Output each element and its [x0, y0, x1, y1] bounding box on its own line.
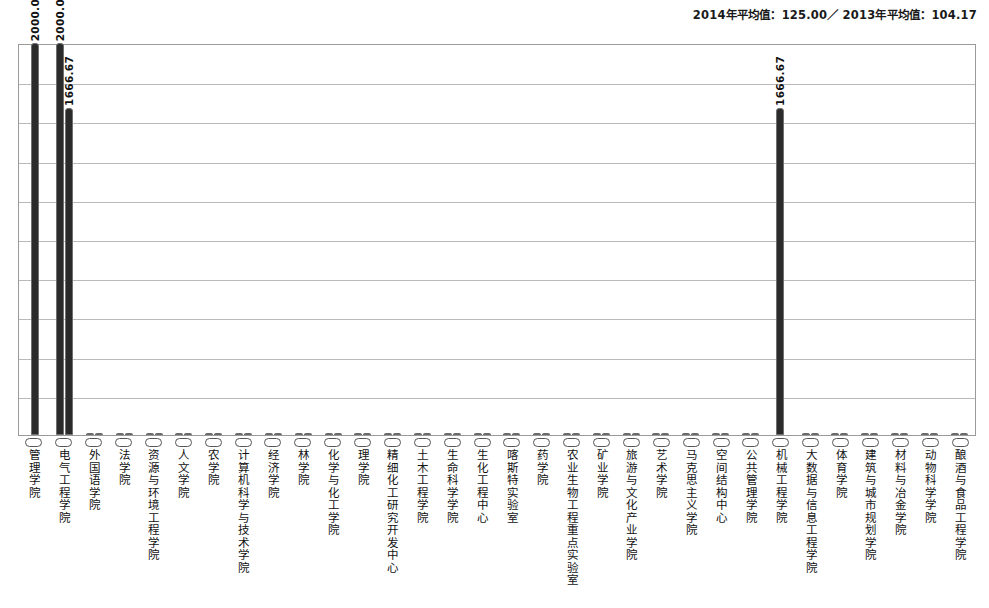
axis-tick-cell: [796, 436, 826, 448]
axis-tick-cell: [766, 436, 796, 448]
x-axis-label: 农业生物工程重点实验室: [566, 449, 578, 587]
bar-small: [265, 433, 273, 435]
axis-tick-marker: [952, 438, 969, 447]
bar-small: [125, 433, 133, 435]
x-axis-label-cell: 材料与冶金学院: [885, 449, 915, 607]
axis-tick-marker: [742, 438, 759, 447]
bar-group: [259, 45, 289, 435]
axis-tick-marker: [175, 438, 192, 447]
x-axis-label: 机械工程学院: [775, 449, 787, 524]
x-axis-label-cell: 酿酒与食品工程学院: [945, 449, 975, 607]
bar-small: [116, 433, 124, 435]
x-axis-label-cell: 计算机科学与技术学院: [228, 449, 258, 607]
x-axis-label: 计算机科学与技术学院: [237, 449, 249, 574]
bar-small: [483, 433, 491, 435]
axis-tick-cell: [228, 436, 258, 448]
bar-small: [623, 433, 631, 435]
axis-tick-marker: [25, 438, 42, 447]
bar-small: [453, 433, 461, 435]
axis-tick-marker: [294, 438, 311, 447]
x-axis-label-cell: 马克思主义学院: [676, 449, 706, 607]
bar-group: [676, 45, 706, 435]
bar-plot: 2000.02000.01666.671666.67: [19, 45, 975, 435]
bar-small: [712, 433, 720, 435]
axis-tick-cell: [318, 436, 348, 448]
x-axis-labels: 管理学院电气工程学院外国语学院法学院资源与环境工程学院人文学院农学院计算机科学与…: [18, 449, 976, 607]
bar-group: [706, 45, 736, 435]
axis-tick-cell: [378, 436, 408, 448]
x-axis-label: 化学与化工学院: [327, 449, 339, 537]
axis-tick-marker: [802, 438, 819, 447]
bar-group: [795, 45, 825, 435]
bar-group: [586, 45, 616, 435]
bar-small: [602, 433, 610, 435]
bar-small: [175, 433, 183, 435]
x-axis-label: 动物科学学院: [924, 449, 936, 524]
axis-tick-marker: [832, 438, 849, 447]
bar-small: [831, 433, 839, 435]
x-axis-label: 经济学院: [267, 449, 279, 499]
axis-tick-marker: [354, 438, 371, 447]
bar-group: [914, 45, 944, 435]
bar-small: [205, 433, 213, 435]
bar-small: [951, 433, 959, 435]
x-axis-label-cell: 管理学院: [19, 449, 49, 607]
axis-tick-cell: [139, 436, 169, 448]
x-axis-label-cell: 矿业学院: [587, 449, 617, 607]
axis-tick-marker: [683, 438, 700, 447]
bar-small: [572, 433, 580, 435]
axis-tick-marker: [533, 438, 550, 447]
axis-tick-marker: [324, 438, 341, 447]
x-axis-label: 马克思主义学院: [685, 449, 697, 537]
bar-small: [393, 433, 401, 435]
axis-tick-marker: [713, 438, 730, 447]
x-axis-label-cell: 土木工程学院: [407, 449, 437, 607]
bar-group: [229, 45, 259, 435]
bar-group: [557, 45, 587, 435]
axis-tick-cell: [527, 436, 557, 448]
bar-small: [682, 433, 690, 435]
x-axis-label-cell: 精细化工研究开发中心: [378, 449, 408, 607]
x-axis-label: 人文学院: [177, 449, 189, 499]
x-axis-label: 大数据与信息工程学院: [805, 449, 817, 574]
axis-tick-cell: [109, 436, 139, 448]
x-axis-label-cell: 林学院: [288, 449, 318, 607]
bar: 1666.67: [776, 108, 784, 435]
bar-group: [527, 45, 557, 435]
bar-small: [593, 433, 601, 435]
axis-tick-cell: [168, 436, 198, 448]
x-axis-label: 法学院: [118, 449, 130, 487]
bar-group: [855, 45, 885, 435]
bar-small: [295, 433, 303, 435]
axis-tick-marker: [145, 438, 162, 447]
bar-small: [661, 433, 669, 435]
bar-group: [467, 45, 497, 435]
bar-group: [318, 45, 348, 435]
bar-group: [169, 45, 199, 435]
axis-tick-cell: [706, 436, 736, 448]
x-axis-label: 喀斯特实验室: [506, 449, 518, 524]
bar-group: [199, 45, 229, 435]
axis-tick-marker: [205, 438, 222, 447]
axis-tick-marker: [653, 438, 670, 447]
bar-small: [721, 433, 729, 435]
bar-small: [900, 433, 908, 435]
bar-small: [811, 433, 819, 435]
x-axis-label-cell: 电气工程学院: [49, 449, 79, 607]
axis-tick-cell: [19, 436, 49, 448]
bar-small: [652, 433, 660, 435]
bar-small: [742, 433, 750, 435]
axis-tick-marker: [474, 438, 491, 447]
axis-tick-marker: [115, 438, 132, 447]
bar-small: [95, 433, 103, 435]
x-axis-label: 生命科学学院: [446, 449, 458, 524]
bar-small: [384, 433, 392, 435]
x-axis-label-cell: 建筑与城市规划学院: [856, 449, 886, 607]
x-axis-label: 酿酒与食品工程学院: [954, 449, 966, 562]
axis-tick-cell: [617, 436, 647, 448]
x-axis-label-cell: 农业生物工程重点实验室: [557, 449, 587, 607]
x-axis-label: 建筑与城市规划学院: [864, 449, 876, 562]
x-axis-label-cell: 公共管理学院: [736, 449, 766, 607]
bar-small: [840, 433, 848, 435]
bar-small: [512, 433, 520, 435]
